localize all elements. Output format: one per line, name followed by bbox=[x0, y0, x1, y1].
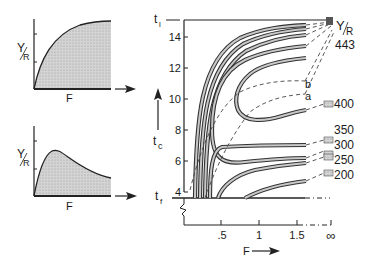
x-tick-infinity: ∞ bbox=[326, 228, 335, 243]
y-tick-12: 12 bbox=[169, 62, 181, 74]
x-tick-1: 1 bbox=[256, 229, 262, 241]
inset-top-xlabel: F bbox=[66, 92, 73, 104]
y-tick-4: 4 bbox=[175, 186, 181, 198]
t-l-label: t bbox=[154, 12, 158, 26]
maximum-marker bbox=[326, 17, 333, 25]
x-tick-1-5: 1.5 bbox=[289, 229, 304, 241]
inset-bottom-chart: Y R F bbox=[17, 126, 137, 212]
y-tick-6: 6 bbox=[175, 155, 181, 167]
x-tick-0-5: .5 bbox=[217, 229, 226, 241]
contour-label-443: 443 bbox=[335, 38, 355, 52]
ridge-label-a: a bbox=[305, 90, 312, 102]
svg-text:R: R bbox=[346, 26, 353, 37]
svg-text:l: l bbox=[159, 20, 161, 29]
y-axis-label: t bbox=[153, 134, 157, 148]
contour-label-200: 200 bbox=[334, 168, 354, 182]
t-f-label: t bbox=[155, 189, 159, 203]
x-axis-label: F bbox=[243, 245, 250, 257]
y-tick-8: 8 bbox=[175, 124, 181, 136]
svg-text:f: f bbox=[160, 197, 163, 206]
arrow-up-icon bbox=[154, 88, 162, 100]
inset-bottom-xlabel: F bbox=[66, 200, 73, 212]
svg-text:R: R bbox=[23, 158, 30, 168]
svg-text:R: R bbox=[23, 52, 30, 62]
ridge-label-b: b bbox=[305, 78, 311, 90]
svg-text:c: c bbox=[158, 141, 163, 151]
y-tick-14: 14 bbox=[169, 31, 181, 43]
contour-label-350: 350 bbox=[334, 123, 354, 137]
contour-label-300: 300 bbox=[334, 138, 354, 152]
inset-top-chart: Y R F bbox=[17, 19, 136, 104]
contour-label-250: 250 bbox=[334, 153, 354, 167]
legend-title: Y bbox=[336, 18, 345, 33]
contour-label-400: 400 bbox=[334, 97, 354, 111]
y-tick-10: 10 bbox=[169, 93, 181, 105]
main-contour-chart: 14 12 10 8 6 4 .5 1 1.5 ∞ F t c t l bbox=[153, 12, 355, 257]
contour-200 bbox=[245, 181, 306, 198]
